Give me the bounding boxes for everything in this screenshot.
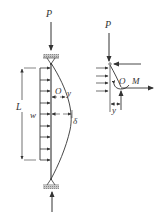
diagram-canvas: P w O <box>0 0 166 214</box>
axial-load-label-fbd: P <box>104 19 111 30</box>
moment-label: M <box>131 76 140 86</box>
fbd-distributed-load <box>96 68 108 91</box>
max-deflection-label-delta: δ <box>73 116 78 126</box>
max-deflection-dimension <box>52 110 72 118</box>
section-point-label-O: O <box>55 86 62 96</box>
fbd-deflection-label: y <box>111 105 116 115</box>
bottom-pin-support <box>43 178 59 189</box>
axial-load-label-top: P <box>45 8 52 19</box>
deflected-curve <box>51 63 71 179</box>
column-diagram-svg: P w O <box>0 0 166 214</box>
distributed-load-w <box>40 68 50 160</box>
distributed-load-label: w <box>30 110 36 120</box>
deflection-coordinate-label-y: y <box>66 88 71 98</box>
fbd-pin <box>109 63 111 65</box>
left-column-diagram: P w O <box>15 8 78 212</box>
right-free-body-diagram: P O M <box>96 19 153 115</box>
fbd-section-point-label: O <box>119 76 126 86</box>
length-label: L <box>15 101 22 112</box>
